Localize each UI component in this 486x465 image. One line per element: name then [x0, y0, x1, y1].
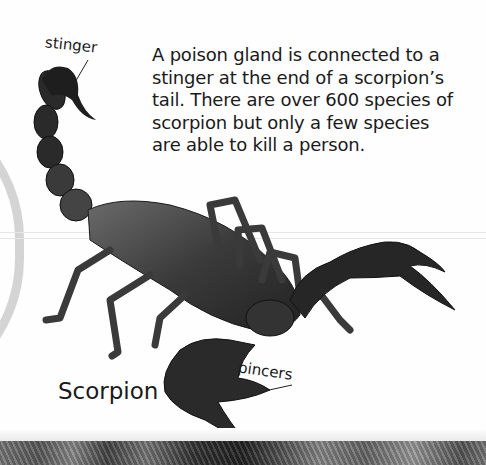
body-line: tail. There are over 600 species of	[152, 89, 482, 112]
body-line: are able to kill a person.	[152, 134, 482, 157]
body-line: scorpion but only a few species	[152, 112, 482, 135]
textbook-page: stinger pincers A poison gland is connec…	[0, 0, 486, 465]
body-paragraph: A poison gland is connected to a stinger…	[152, 44, 482, 157]
ground-photo-strip	[0, 441, 486, 465]
body-line: A poison gland is connected to a	[152, 44, 482, 67]
page-edge-shadow	[0, 428, 486, 442]
caption-title: Scorpion	[58, 378, 158, 404]
body-line: stinger at the end of a scorpion’s	[152, 67, 482, 90]
